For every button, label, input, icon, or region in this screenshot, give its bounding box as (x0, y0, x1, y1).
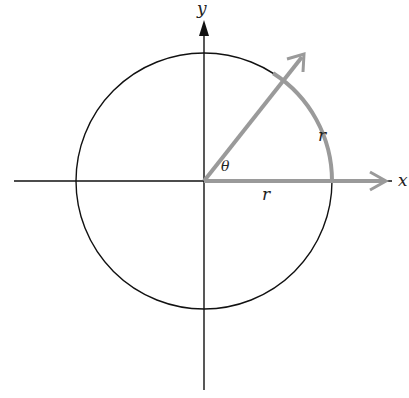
terminal-ray (204, 57, 302, 181)
radius-label: r (262, 184, 271, 204)
angle-label: θ (221, 158, 230, 174)
x-axis-label: x (398, 170, 408, 190)
y-axis-arrow-icon (199, 20, 209, 36)
arc-label: r (318, 125, 327, 145)
y-axis-label: y (196, 0, 207, 18)
unit-circle-diagram: y x θ r r (0, 0, 409, 398)
